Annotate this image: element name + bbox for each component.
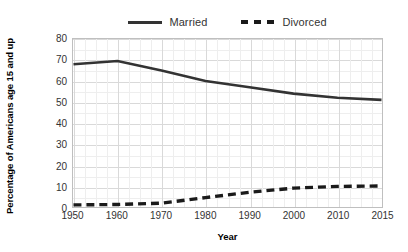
y-tick-label: 80	[40, 33, 67, 44]
x-tick-label: 1950	[61, 210, 83, 221]
x-tick-label: 2015	[371, 210, 393, 221]
y-axis-tick-labels: 01020304050607080	[40, 38, 67, 208]
plot-area	[72, 38, 383, 208]
y-tick-label: 40	[40, 118, 67, 129]
legend-item-married[interactable]: Married	[128, 16, 207, 28]
y-tick-label: 60	[40, 75, 67, 86]
x-tick-label: 2000	[283, 210, 305, 221]
x-axis-title: Year	[72, 231, 383, 242]
chart-container: Married Divorced Percentage of Americans…	[0, 0, 408, 252]
legend-label-married: Married	[169, 16, 207, 28]
series-line-divorced	[73, 186, 381, 205]
x-tick-label: 1990	[239, 210, 261, 221]
legend-line-dashed-icon	[241, 20, 275, 24]
y-tick-label: 20	[40, 160, 67, 171]
chart-legend: Married Divorced	[72, 12, 383, 32]
y-tick-label: 50	[40, 96, 67, 107]
legend-label-divorced: Divorced	[282, 16, 326, 28]
x-tick-label: 2010	[327, 210, 349, 221]
series-line-married	[73, 61, 381, 100]
x-tick-label: 1960	[106, 210, 128, 221]
y-axis-title: Percentage of Americans age 15 and up	[0, 0, 18, 252]
legend-line-solid-icon	[128, 21, 162, 24]
series-lines	[73, 39, 382, 207]
x-axis-tick-labels: 19501960197019801990200020102015	[72, 210, 383, 226]
y-tick-label: 30	[40, 139, 67, 150]
y-tick-label: 70	[40, 54, 67, 65]
legend-item-divorced[interactable]: Divorced	[241, 16, 326, 28]
x-tick-label: 1970	[150, 210, 172, 221]
y-tick-label: 10	[40, 181, 67, 192]
x-tick-label: 1980	[194, 210, 216, 221]
